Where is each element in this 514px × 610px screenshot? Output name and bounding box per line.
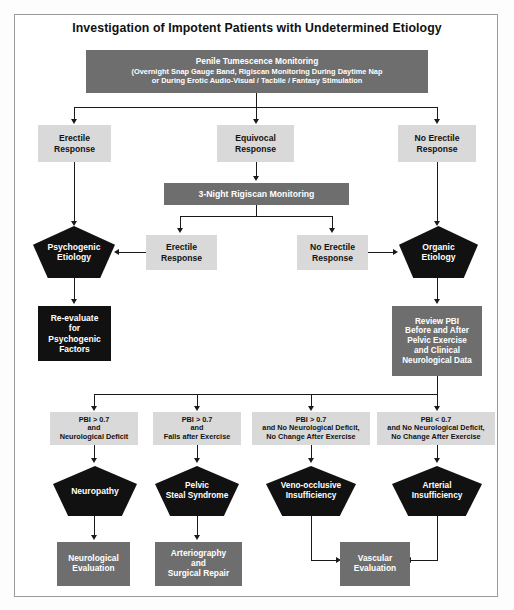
node-criteria-no-change-high-pbi: PBI > 0.7 and No Neurological Deficit, N… bbox=[252, 412, 370, 445]
node-organic-etiology: Organic Etiology bbox=[399, 226, 478, 278]
node-erectile-response-1: Erectile Response bbox=[38, 125, 111, 162]
arrowhead bbox=[253, 119, 259, 124]
node-no-erectile-response-1: No Erectile Response bbox=[398, 125, 476, 162]
node-no-erectile-response-2: No Erectile Response bbox=[297, 235, 368, 270]
node-neuropathy: Neuropathy bbox=[53, 466, 137, 516]
node-line: Etiology bbox=[402, 252, 475, 262]
arrowhead bbox=[434, 406, 440, 411]
node-review-pbi: Review PBI Before and After Pelvic Exerc… bbox=[392, 306, 482, 376]
node-line: No Change After Exercise bbox=[266, 433, 355, 442]
connector bbox=[74, 162, 75, 224]
arrowhead bbox=[177, 228, 183, 233]
node-line: Psychogenic bbox=[48, 334, 100, 344]
node-title-line: Penile Tumescence Monitoring bbox=[196, 57, 319, 67]
node-line: Evaluation bbox=[354, 564, 396, 574]
arrowhead bbox=[194, 535, 200, 540]
node-line: Neuropathy bbox=[56, 486, 134, 496]
node-arteriography-surgical-repair: Arteriography and Surgical Repair bbox=[155, 542, 242, 586]
node-line: Surgical Repair bbox=[168, 569, 229, 579]
node-erectile-response-2: Erectile Response bbox=[146, 235, 217, 270]
arrowhead bbox=[434, 299, 440, 304]
node-criteria-no-change-low-pbi: PBI < 0.7 and No Neurological Deficit, N… bbox=[377, 412, 495, 445]
node-line: Response bbox=[312, 253, 353, 263]
node-line: Equivocal bbox=[235, 133, 276, 143]
node-pelvic-steal-syndrome: Pelvic Steal Syndrome bbox=[155, 466, 239, 516]
node-line: Falls after Exercise bbox=[164, 433, 231, 442]
node-line: Response bbox=[54, 144, 95, 154]
flowchart-canvas: Investigation of Impotent Patients with … bbox=[0, 0, 514, 610]
connector bbox=[94, 394, 438, 395]
node-reevaluate-psychogenic-factors: Re-evaluate for Psychogenic Factors bbox=[38, 306, 111, 361]
node-line: Insufficiency bbox=[395, 491, 479, 501]
page-title: Investigation of Impotent Patients with … bbox=[0, 21, 514, 35]
connector bbox=[437, 516, 438, 560]
connector bbox=[256, 205, 257, 216]
arrowhead bbox=[434, 458, 440, 463]
node-line: Erectile bbox=[59, 133, 90, 143]
node-3-night-rigiscan-monitoring: 3-Night Rigiscan Monitoring bbox=[164, 183, 349, 205]
node-line: Pelvic Exercise bbox=[407, 336, 467, 346]
node-line: No Erectile bbox=[310, 242, 355, 252]
node-line: Evaluation bbox=[72, 564, 114, 574]
node-line: No Erectile bbox=[415, 133, 460, 143]
arrowhead bbox=[91, 535, 97, 540]
arrowhead bbox=[91, 458, 97, 463]
node-equivocal-response: Equivocal Response bbox=[217, 125, 294, 162]
arrowhead bbox=[71, 119, 77, 124]
node-line: Before and After bbox=[405, 326, 469, 336]
arrowhead bbox=[253, 176, 259, 181]
arrowhead bbox=[329, 228, 335, 233]
node-line: Etiology bbox=[36, 252, 112, 262]
node-arterial-insufficiency: Arterial Insufficiency bbox=[392, 466, 482, 516]
node-criteria-neurological-deficit: PBI > 0.7 and Neurological Deficit bbox=[50, 412, 138, 445]
connector bbox=[437, 376, 438, 394]
node-line: Response bbox=[161, 253, 202, 263]
node-criteria-falls-after-exercise: PBI > 0.7 and Falls after Exercise bbox=[153, 412, 241, 445]
node-detail-line-2: or During Erotic Audio-Visual / Tacbile … bbox=[152, 77, 363, 86]
connector bbox=[368, 252, 395, 253]
node-line: Response bbox=[235, 144, 276, 154]
node-neurological-evaluation: Neurological Evaluation bbox=[57, 542, 130, 586]
node-line: Review PBI bbox=[415, 317, 459, 327]
connector bbox=[411, 560, 438, 561]
node-veno-occlusive-insufficiency: Veno-occlusive Insufficiency bbox=[266, 466, 356, 516]
node-line: Organic bbox=[402, 242, 475, 252]
node-line: Response bbox=[416, 144, 457, 154]
node-line: Steal Syndrome bbox=[158, 491, 236, 501]
node-penile-tumescence-monitoring: Penile Tumescence Monitoring (Overnight … bbox=[86, 50, 428, 93]
node-line: No Change After Exercise bbox=[391, 433, 480, 442]
connector bbox=[311, 560, 338, 561]
node-line: Erectile bbox=[166, 242, 197, 252]
arrowhead bbox=[91, 406, 97, 411]
arrowhead bbox=[434, 119, 440, 124]
connector bbox=[311, 516, 312, 560]
node-vascular-evaluation: Vascular Evaluation bbox=[340, 542, 410, 586]
arrowhead bbox=[308, 458, 314, 463]
arrowhead bbox=[194, 458, 200, 463]
node-line: Insufficiency bbox=[269, 491, 353, 501]
node-line: for bbox=[69, 323, 80, 333]
node-line: Neurological Deficit bbox=[60, 433, 129, 442]
node-psychogenic-etiology: Psychogenic Etiology bbox=[33, 226, 115, 278]
node-line: 3-Night Rigiscan Monitoring bbox=[199, 189, 315, 199]
node-line: Neurological Data bbox=[402, 356, 472, 366]
node-line: Factors bbox=[59, 344, 90, 354]
node-line: Re-evaluate bbox=[51, 313, 99, 323]
node-line: and Clinical bbox=[414, 346, 460, 356]
arrowhead bbox=[393, 249, 398, 255]
arrowhead bbox=[71, 299, 77, 304]
connector bbox=[437, 162, 438, 224]
connector bbox=[180, 216, 333, 217]
node-line: Psychogenic bbox=[36, 242, 112, 252]
arrowhead bbox=[308, 406, 314, 411]
arrowhead bbox=[194, 406, 200, 411]
connector bbox=[256, 93, 257, 107]
connector bbox=[119, 252, 146, 253]
